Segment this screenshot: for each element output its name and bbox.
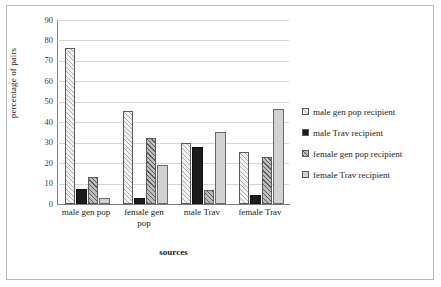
y-tick-label: 80: [31, 36, 53, 45]
bar: [134, 198, 145, 204]
x-tick-label-line: pop: [109, 218, 179, 229]
y-tick-label: 30: [31, 138, 53, 147]
x-axis-line: [57, 204, 290, 205]
plot-area: [57, 20, 289, 204]
light-hatch-swatch: [302, 108, 309, 115]
solid-black-swatch: [302, 129, 309, 136]
chart-figure: 0102030405060708090 percentage of pairs …: [0, 0, 441, 287]
bar: [88, 177, 99, 204]
bar: [273, 109, 284, 204]
y-tick-label: 20: [31, 159, 53, 168]
legend-item-label: female Trav recipient: [313, 170, 390, 180]
y-tick-label: 10: [31, 179, 53, 188]
bar: [146, 138, 157, 204]
legend-item[interactable]: female gen pop recipient: [302, 145, 432, 162]
legend-item-label: male gen pop recipient: [313, 107, 395, 117]
bar: [123, 111, 134, 204]
bar: [204, 190, 215, 204]
bar: [181, 143, 192, 204]
y-axis-ticks: 0102030405060708090: [27, 20, 53, 205]
bar: [65, 48, 76, 204]
bar: [192, 147, 203, 204]
y-tick-label: 40: [31, 118, 53, 127]
bar: [262, 157, 273, 204]
bar-group: [57, 20, 115, 204]
y-tick-label: 60: [31, 77, 53, 86]
bar: [239, 152, 250, 204]
y-tick-label: 70: [31, 56, 53, 65]
bar: [250, 195, 261, 204]
legend-item-label: female gen pop recipient: [313, 149, 402, 159]
bar: [157, 165, 168, 204]
grey-hatch-swatch: [302, 150, 309, 157]
x-axis-tick-labels: male gen popfemale genpopmale Travfemale…: [57, 207, 290, 243]
x-tick-label: female Trav: [225, 207, 295, 218]
light-grey-swatch: [302, 171, 309, 178]
bar-group: [231, 20, 289, 204]
y-tick-label: 0: [31, 200, 53, 209]
legend-item-label: male Trav recipient: [313, 128, 383, 138]
bar: [99, 198, 110, 204]
x-tick-label-line: female Trav: [225, 207, 295, 218]
bar-group: [173, 20, 231, 204]
legend-item[interactable]: male gen pop recipient: [302, 103, 432, 120]
chart-legend: male gen pop recipientmale Trav recipien…: [302, 103, 432, 187]
y-axis-title: percentage of pairs: [8, 23, 18, 143]
y-tick-label: 90: [31, 16, 53, 25]
bar: [76, 189, 87, 204]
legend-item[interactable]: male Trav recipient: [302, 124, 432, 141]
bar: [215, 132, 226, 204]
legend-item[interactable]: female Trav recipient: [302, 166, 432, 183]
y-tick-label: 50: [31, 97, 53, 106]
x-axis-title: sources: [57, 247, 290, 257]
bar-group: [115, 20, 173, 204]
